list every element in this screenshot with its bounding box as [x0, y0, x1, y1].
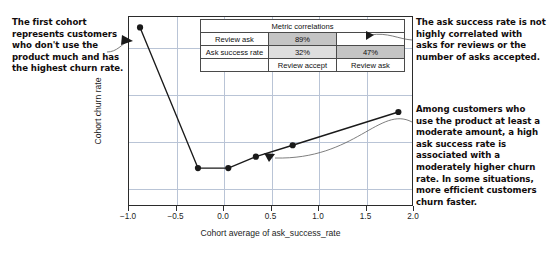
x-tick-label: 0.5: [265, 212, 276, 221]
column-header-blank: [201, 59, 269, 72]
metric-table-title: Metric correlations: [201, 20, 405, 33]
annotation-ask-success-correlation: The ask success rate is not highly corre…: [416, 17, 546, 63]
cell-ask-success-vs-review-accept: 32%: [269, 46, 337, 59]
cell-review-ask-vs-review-accept: 89%: [269, 33, 337, 46]
column-header-review-ask: Review ask: [337, 59, 405, 72]
x-tick: [176, 206, 177, 211]
figure-root: The first cohort represents customers wh…: [0, 0, 548, 253]
x-axis-title: Cohort average of ask_success_rate: [128, 228, 413, 238]
series-marker: [290, 142, 296, 148]
cell-ask-success-vs-review-ask: 47%: [337, 46, 405, 59]
x-tick-label: 2.0: [407, 212, 418, 221]
series-marker: [253, 154, 259, 160]
annotation-moderate-users-churn: Among customers who use the product at l…: [416, 104, 544, 208]
x-tick-label: −1.0: [120, 212, 136, 221]
x-tick: [223, 206, 224, 211]
y-axis-title: Cohort churn rate: [93, 78, 103, 145]
row-label-ask-success-rate: Ask success rate: [201, 46, 269, 59]
row-label-review-ask: Review ask: [201, 33, 269, 46]
annotation-first-cohort: The first cohort represents customers wh…: [12, 17, 128, 75]
table-row: Ask success rate 32% 47%: [201, 46, 405, 59]
column-header-review-accept: Review accept: [269, 59, 337, 72]
metric-correlations-table: Metric correlations Review ask 89% Ask s…: [200, 19, 405, 72]
x-tick: [128, 206, 129, 211]
table-row-header: Review accept Review ask: [201, 59, 405, 72]
series-marker: [137, 24, 143, 30]
x-tick: [271, 206, 272, 211]
series-marker: [225, 165, 231, 171]
cell-review-ask-vs-review-ask: [337, 33, 405, 46]
x-tick-label: 1.0: [312, 212, 323, 221]
table-row: Review ask 89%: [201, 33, 405, 46]
table-row-title: Metric correlations: [201, 20, 405, 33]
x-tick: [413, 206, 414, 211]
series-marker: [195, 165, 201, 171]
x-tick-label: 0.0: [217, 212, 228, 221]
x-tick: [366, 206, 367, 211]
x-tick: [318, 206, 319, 211]
x-tick-label: −0.5: [167, 212, 183, 221]
x-tick-label: 1.5: [360, 212, 371, 221]
series-marker: [395, 109, 401, 115]
